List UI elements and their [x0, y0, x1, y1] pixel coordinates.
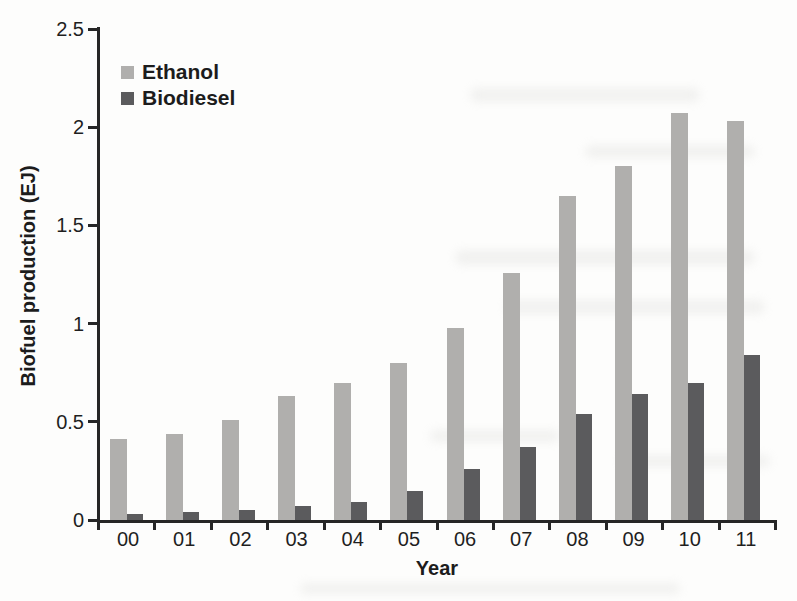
legend: Ethanol Biodiesel: [121, 60, 235, 112]
y-tick: [88, 126, 97, 129]
bar-biodiesel-10: [688, 383, 704, 520]
y-tick-label: 0: [32, 508, 84, 532]
bar-ethanol-02: [222, 420, 239, 520]
bar-biodiesel-00: [127, 514, 143, 520]
x-tick-label: 10: [662, 527, 718, 551]
bar-biodiesel-05: [407, 491, 423, 520]
bar-ethanol-09: [615, 166, 632, 520]
legend-item-biodiesel: Biodiesel: [121, 86, 235, 110]
y-axis-line: [97, 27, 100, 523]
x-tick-label: 06: [437, 527, 493, 551]
y-tick: [88, 420, 97, 423]
bar-biodiesel-03: [295, 506, 311, 520]
y-tick: [88, 519, 97, 522]
bar-biodiesel-08: [576, 414, 592, 520]
bar-ethanol-11: [727, 121, 744, 520]
bar-biodiesel-04: [351, 502, 367, 520]
bar-ethanol-00: [110, 439, 127, 520]
bar-ethanol-08: [559, 196, 576, 520]
legend-label-biodiesel: Biodiesel: [142, 86, 235, 110]
scan-bleed-artifact: [455, 250, 755, 265]
bar-ethanol-03: [278, 396, 295, 520]
bar-biodiesel-07: [520, 447, 536, 520]
bar-biodiesel-01: [183, 512, 199, 520]
x-tick-label: 03: [269, 527, 325, 551]
x-tick-label: 01: [156, 527, 212, 551]
x-tick-label: 02: [212, 527, 268, 551]
biodiesel-swatch-icon: [121, 92, 134, 105]
bar-biodiesel-09: [632, 394, 648, 520]
bar-ethanol-06: [447, 328, 464, 520]
y-tick: [88, 28, 97, 31]
x-tick: [774, 520, 777, 530]
bar-biodiesel-02: [239, 510, 255, 520]
x-tick-label: 00: [100, 527, 156, 551]
x-tick-label: 11: [718, 527, 774, 551]
biofuel-production-chart: Biofuel production (EJ) Year Ethanol Bio…: [0, 0, 797, 601]
y-tick: [88, 322, 97, 325]
bar-ethanol-01: [166, 434, 183, 520]
legend-item-ethanol: Ethanol: [121, 60, 235, 84]
scan-bleed-artifact: [470, 88, 700, 102]
y-tick-label: 0.5: [32, 410, 84, 434]
bar-ethanol-10: [671, 113, 688, 520]
y-tick: [88, 224, 97, 227]
legend-label-ethanol: Ethanol: [142, 60, 219, 84]
x-tick-label: 05: [381, 527, 437, 551]
bar-biodiesel-06: [464, 469, 480, 520]
bar-ethanol-05: [390, 363, 407, 520]
bar-ethanol-04: [334, 383, 351, 520]
y-tick-label: 1: [32, 312, 84, 336]
bar-ethanol-07: [503, 273, 520, 520]
y-tick-label: 2.5: [32, 17, 84, 41]
ethanol-swatch-icon: [121, 66, 134, 79]
x-tick-label: 08: [549, 527, 605, 551]
y-tick-label: 2: [32, 115, 84, 139]
scan-bleed-artifact: [300, 583, 680, 594]
y-tick-label: 1.5: [32, 213, 84, 237]
x-tick-label: 07: [493, 527, 549, 551]
x-axis-title: Year: [100, 557, 774, 580]
bar-biodiesel-11: [744, 355, 760, 520]
x-tick-label: 04: [325, 527, 381, 551]
scan-bleed-artifact: [505, 300, 765, 314]
y-axis-title: Biofuel production (EJ): [17, 160, 43, 392]
x-tick-label: 09: [606, 527, 662, 551]
